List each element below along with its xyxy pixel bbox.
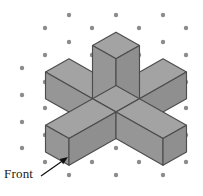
grid-dot [184, 53, 188, 57]
grid-dot [43, 53, 47, 57]
grid-dot [114, 146, 118, 150]
grid-dot [20, 120, 24, 124]
grid-dot [67, 40, 71, 44]
grid-dot [114, 13, 118, 17]
grid-dot [184, 160, 188, 164]
grid-dot [90, 26, 94, 30]
grid-dot [43, 106, 47, 110]
grid-dot [114, 173, 118, 177]
isometric-figure-panel: Front [0, 0, 203, 196]
grid-dot [161, 13, 165, 17]
grid-dot [184, 26, 188, 30]
grid-dot [161, 173, 165, 177]
grid-dot [20, 93, 24, 97]
grid-dot [161, 40, 165, 44]
grid-dot [137, 26, 141, 30]
grid-dot [137, 160, 141, 164]
grid-dot [67, 173, 71, 177]
grid-dot [90, 160, 94, 164]
grid-dot [43, 160, 47, 164]
grid-dot [184, 106, 188, 110]
grid-dot [67, 13, 71, 17]
front-label: Front [4, 166, 33, 182]
block-solid [46, 32, 187, 165]
grid-dot [43, 26, 47, 30]
grid-dot [20, 146, 24, 150]
grid-dot [20, 66, 24, 70]
